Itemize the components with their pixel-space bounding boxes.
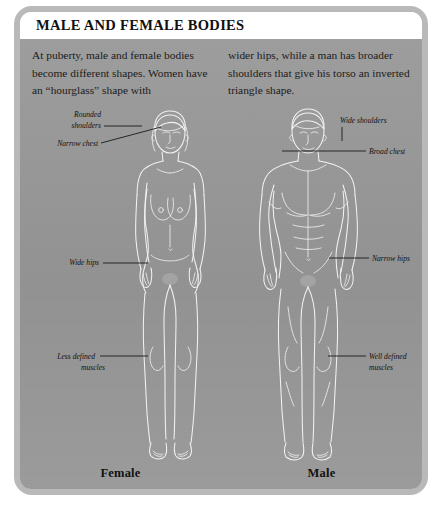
label-less-defined-muscles: Less defined muscles (56, 352, 148, 372)
page-title: MALE AND FEMALE BODIES (36, 17, 244, 34)
info-card-frame: MALE AND FEMALE BODIES At puberty, male … (14, 6, 428, 495)
figures-illustration: .ln{fill:none;stroke:#f2f2f2;stroke-widt… (20, 97, 422, 489)
label-line-1: Rounded (73, 110, 101, 119)
screenshot-root: MALE AND FEMALE BODIES At puberty, male … (0, 0, 440, 517)
label-rounded-shoulders: Rounded shoulders (71, 110, 142, 130)
card-title-bar: MALE AND FEMALE BODIES (20, 12, 422, 41)
label-line-1: Broad chest (369, 147, 406, 156)
label-line-2: muscles (369, 363, 393, 372)
label-line-1: Wide shoulders (340, 116, 387, 125)
label-line-1: Well defined (369, 352, 407, 361)
label-broad-chest: Broad chest (282, 147, 406, 156)
label-narrow-hips: Narrow hips (329, 254, 410, 263)
label-line-2: muscles (81, 363, 105, 372)
label-line-1: Less defined (56, 352, 95, 361)
label-wide-shoulders: Wide shoulders (340, 116, 387, 141)
label-line-2: shoulders (71, 121, 101, 130)
label-line-1: Narrow chest (56, 139, 99, 148)
intro-paragraphs: At puberty, male and female bodies becom… (20, 47, 422, 100)
caption-male: Male (221, 466, 422, 481)
label-well-defined-muscles: Well defined muscles (328, 352, 407, 372)
intro-column-right: wider hips, while a man has broader shou… (228, 47, 410, 100)
card-body-panel: At puberty, male and female bodies becom… (20, 39, 422, 489)
label-line-1: Wide hips (69, 258, 99, 267)
label-line-1: Narrow hips (371, 254, 410, 263)
intro-column-left: At puberty, male and female bodies becom… (32, 47, 214, 100)
female-body-figure (136, 111, 206, 459)
caption-female: Female (20, 466, 221, 481)
label-wide-hips: Wide hips (69, 258, 148, 267)
body-diagram-svg: .ln{fill:none;stroke:#f2f2f2;stroke-widt… (20, 97, 422, 489)
male-body-figure (260, 109, 358, 460)
label-narrow-chest: Narrow chest (56, 127, 161, 148)
female-annotations: Rounded shoulders Narrow chest Wide hips (56, 110, 161, 372)
